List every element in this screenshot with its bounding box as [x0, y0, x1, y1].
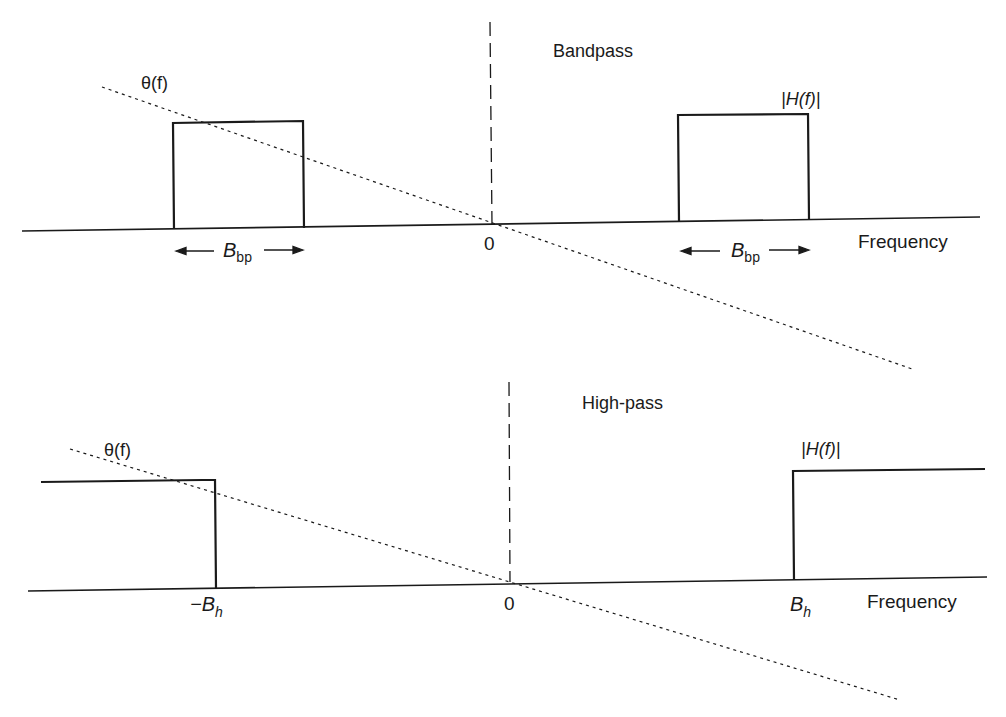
highpass-origin-label: 0 — [504, 594, 515, 613]
cutoff-subscript: h — [215, 604, 223, 620]
highpass-negative-stopband-edge — [41, 480, 216, 588]
bandpass-magnitude-label: |H(f)| — [781, 90, 820, 108]
bandwidth-subscript: bp — [744, 249, 760, 265]
bandwidth-symbol: B — [731, 239, 744, 261]
bandpass-negative-passband — [173, 121, 304, 229]
highpass-positive-stopband-edge — [793, 469, 985, 580]
bandpass-frequency-label: Frequency — [858, 232, 948, 251]
highpass-phase-line — [70, 449, 900, 700]
highpass-magnitude-label: |H(f)| — [801, 440, 840, 458]
bandpass-frequency-axis — [22, 217, 980, 231]
highpass-negative-cutoff-label: −Bh — [190, 594, 223, 619]
bandpass-left-bandwidth-label: Bbp — [223, 240, 252, 264]
cutoff-subscript: h — [803, 604, 811, 620]
cutoff-symbol: −B — [190, 593, 215, 615]
diagram-graphics — [0, 0, 1006, 717]
highpass-origin-dashed-line — [509, 382, 510, 582]
highpass-frequency-label: Frequency — [867, 592, 957, 611]
highpass-positive-cutoff-label: Bh — [790, 594, 811, 619]
bandpass-origin-label: 0 — [484, 234, 495, 253]
bandpass-positive-passband — [678, 114, 809, 221]
bandwidth-symbol: B — [223, 239, 236, 261]
bandpass-right-bandwidth-label: Bbp — [731, 240, 760, 264]
highpass-title: High-pass — [582, 394, 663, 412]
bandwidth-subscript: bp — [236, 249, 252, 265]
bandpass-origin-dashed-line — [490, 22, 492, 225]
bandpass-title: Bandpass — [553, 42, 633, 60]
cutoff-symbol: B — [790, 593, 803, 615]
bandpass-phase-label: θ(f) — [141, 74, 168, 92]
filter-response-figure: Bandpass θ(f) |H(f)| 0 Frequency Bbp Bbp… — [0, 0, 1006, 717]
highpass-phase-label: θ(f) — [104, 441, 131, 459]
highpass-panel — [28, 382, 987, 700]
highpass-frequency-axis — [28, 577, 987, 591]
